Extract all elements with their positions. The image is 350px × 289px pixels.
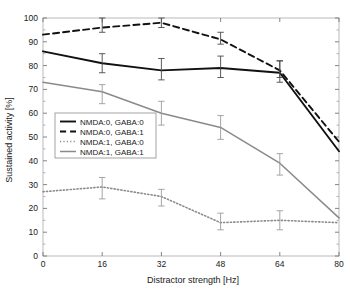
- y-tick-label: 40: [29, 156, 39, 166]
- x-tick-label: 16: [97, 259, 107, 269]
- y-tick-label: 30: [29, 180, 39, 190]
- series-line: [43, 187, 339, 223]
- x-tick-label: 64: [275, 259, 285, 269]
- y-tick-label: 60: [29, 108, 39, 118]
- y-tick-label: 90: [29, 37, 39, 47]
- y-tick-label: 50: [29, 132, 39, 142]
- legend-label: NMDA:0, GABA:1: [80, 128, 144, 137]
- x-tick-label: 80: [334, 259, 344, 269]
- clipped-title-text: [30, 0, 330, 5]
- y-tick-label: 80: [29, 61, 39, 71]
- legend-label: NMDA:1, GABA:1: [80, 148, 144, 157]
- chart-legend: NMDA:0, GABA:0NMDA:0, GABA:1NMDA:1, GABA…: [55, 113, 156, 158]
- y-tick-label: 0: [33, 251, 38, 261]
- y-tick-label: 100: [24, 13, 38, 23]
- y-tick-label: 10: [29, 227, 39, 237]
- line-chart: 0102030405060708090100 01632486480 NMDA:…: [0, 0, 350, 289]
- legend-label: NMDA:0, GABA:0: [80, 118, 144, 127]
- y-tick-label: 70: [29, 84, 39, 94]
- x-tick-label: 32: [157, 259, 167, 269]
- x-tick-label: 48: [216, 259, 226, 269]
- y-tick-label: 20: [29, 203, 39, 213]
- x-tick-label: 0: [41, 259, 46, 269]
- x-axis-label: Distractor strength [Hz]: [147, 275, 239, 285]
- figure-container: 0102030405060708090100 01632486480 NMDA:…: [0, 0, 350, 289]
- legend-label: NMDA:1, GABA:0: [80, 138, 144, 147]
- y-axis-label: Sustained activity [%]: [4, 97, 14, 183]
